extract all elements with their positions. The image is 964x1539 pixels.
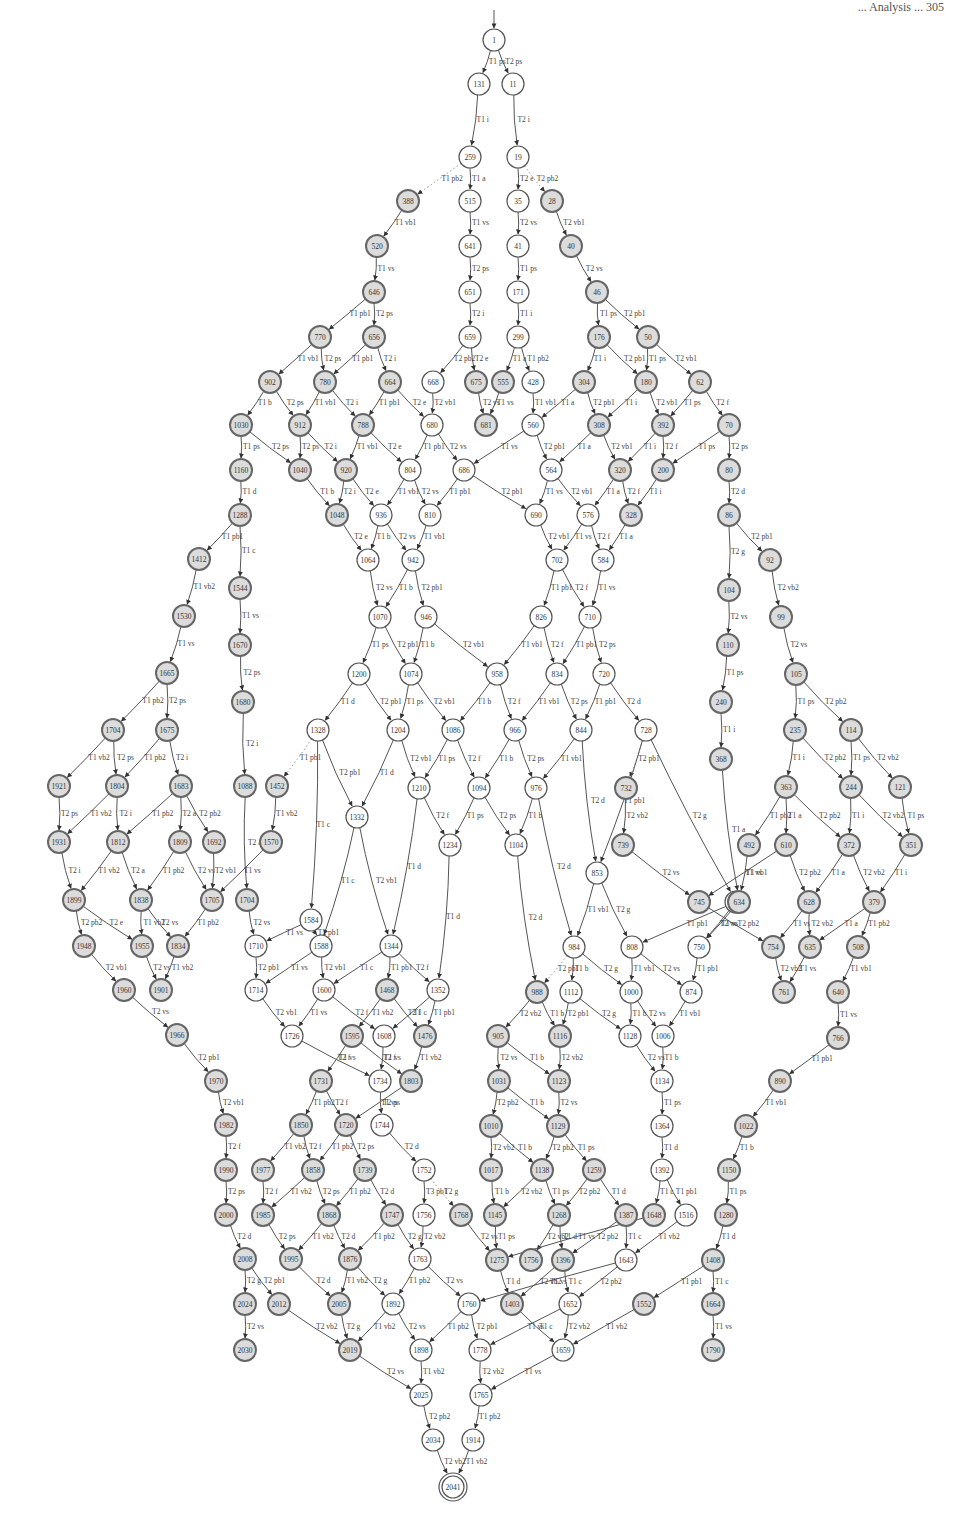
state-node: 1768 <box>450 1204 472 1226</box>
state-node: 1412 <box>188 548 210 570</box>
state-node: 1931 <box>48 831 70 853</box>
transition-label: T2 ps <box>272 442 289 451</box>
state-id: 40 <box>567 242 575 251</box>
transition-label: T2 g <box>602 1009 616 1018</box>
transition-label: T2 ps <box>228 1187 245 1196</box>
state-node: 70 <box>718 414 740 436</box>
state-id: 41 <box>514 242 522 251</box>
state-id: 766 <box>832 1034 844 1043</box>
state-id: 1200 <box>352 670 367 679</box>
state-node: 62 <box>689 371 711 393</box>
state-id: 244 <box>845 783 857 792</box>
state-id: 890 <box>774 1077 786 1086</box>
transition-label: T1 ps <box>649 354 666 363</box>
transition-edge <box>713 1271 714 1292</box>
transition-label: T2 pb2 <box>597 1232 619 1241</box>
transition-label: T2 vb2 <box>877 753 899 762</box>
state-id: 1006 <box>656 1032 671 1041</box>
state-id: 1760 <box>462 1300 477 1309</box>
state-space-graph: T1 psT2 psT1 iT2 iT1 pb2T1 aT2 eT2 pb2T1… <box>0 0 964 1539</box>
transition-label: T1 vb2 <box>276 809 298 818</box>
transition-edge <box>243 713 245 774</box>
state-node: 1834 <box>167 935 189 957</box>
state-id: 1570 <box>264 838 279 847</box>
state-node: 1112 <box>560 981 582 1003</box>
transition-label: T1 vs <box>178 639 195 648</box>
transition-label: T1 vs <box>550 1277 567 1286</box>
state-id: 761 <box>778 988 790 997</box>
state-id: 1396 <box>556 1256 571 1265</box>
transition-label: T2 vb1 <box>435 398 457 407</box>
transition-edge <box>729 526 730 578</box>
state-id: 1588 <box>314 942 329 951</box>
transition-label: T2 f <box>551 640 564 649</box>
state-node: 1268 <box>548 1204 570 1226</box>
state-node: 628 <box>798 891 820 913</box>
transition-label: T2 pb1 <box>397 640 419 649</box>
state-node: 958 <box>486 663 508 685</box>
transition-label: T2 vb2 <box>493 1143 515 1152</box>
state-id: 754 <box>767 943 779 952</box>
transition-edge <box>518 303 519 325</box>
transition-label: T1 ps <box>727 668 744 677</box>
state-node: 1128 <box>619 1025 641 1047</box>
state-node: 1210 <box>408 777 430 799</box>
transition-label: T1 ps <box>907 811 924 820</box>
state-node: 1765 <box>470 1384 492 1406</box>
state-node: 2008 <box>234 1248 256 1270</box>
state-node: 1387 <box>615 1204 637 1226</box>
state-node: 988 <box>526 981 548 1003</box>
state-node: 651 <box>459 281 481 303</box>
state-id: 905 <box>492 1032 504 1041</box>
transition-edge <box>597 303 598 325</box>
transition-label: T2 ps <box>287 398 304 407</box>
transition-edge <box>838 1003 839 1026</box>
transition-label: T2 vs <box>648 1053 665 1062</box>
state-id: 1000 <box>624 988 639 997</box>
state-id: 1714 <box>249 986 264 995</box>
transition-label: T1 vs <box>715 1322 732 1331</box>
state-id: 1868 <box>322 1211 337 1220</box>
transition-label: T2 ps <box>731 442 748 451</box>
state-id: 2012 <box>272 1300 287 1309</box>
transition-label: T1 ps <box>243 442 260 451</box>
state-id: 902 <box>264 378 276 387</box>
state-id: 180 <box>640 378 652 387</box>
state-node: 19 <box>507 146 529 168</box>
transition-label: T2 pb1 <box>339 768 361 777</box>
transition-label: T2 vb1 <box>563 218 585 227</box>
state-node: 1747 <box>381 1204 403 1226</box>
transition-label: T2 ps <box>599 640 616 649</box>
transition-label: T2 vs <box>586 264 603 273</box>
state-id: 1160 <box>234 466 249 475</box>
transition-label: T2 f <box>468 754 481 763</box>
state-id: 1812 <box>111 838 126 847</box>
state-id: 1850 <box>294 1121 309 1130</box>
state-id: 1070 <box>373 613 388 622</box>
state-id: 50 <box>644 333 652 342</box>
state-node: 745 <box>688 891 710 913</box>
state-node: 1344 <box>380 935 402 957</box>
state-node: 1544 <box>229 577 251 599</box>
transition-label: T2 pb1 <box>751 532 773 541</box>
transition-label: T2 f <box>265 1187 278 1196</box>
state-id: 104 <box>723 586 735 595</box>
state-id: 62 <box>696 378 704 387</box>
state-id: 659 <box>464 333 476 342</box>
transition-edge <box>662 1092 663 1114</box>
transition-label: T2 e <box>520 174 534 183</box>
transition-label: T1 d <box>446 912 460 921</box>
state-node: 810 <box>419 504 441 526</box>
state-node: 1970 <box>205 1070 227 1092</box>
transition-label: T2 ps <box>117 753 134 762</box>
transition-label: T1 a <box>577 442 591 451</box>
state-id: 368 <box>715 755 727 764</box>
transition-label: T1 vs <box>793 919 810 928</box>
transition-label: T2 vb2 <box>521 1187 543 1196</box>
transition-label: T1 vb2 <box>312 1232 334 1241</box>
transition-label: T2 vs <box>422 487 439 496</box>
state-node: 1995 <box>280 1248 302 1270</box>
transition-label: T1 a <box>732 825 746 834</box>
transition-label: T2 g <box>604 964 618 973</box>
transition-label: T1 vb1 <box>297 354 319 363</box>
